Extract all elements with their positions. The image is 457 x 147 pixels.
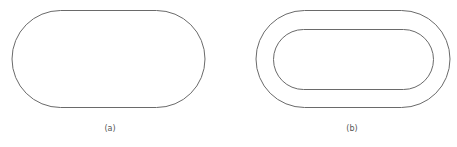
caption-a: (a) — [95, 124, 125, 133]
stadium-shape-a — [12, 11, 205, 108]
stadium-inner-b — [274, 30, 434, 90]
stadium-outer-b — [256, 11, 450, 108]
diagram-canvas — [0, 0, 457, 147]
caption-b: (b) — [337, 124, 367, 133]
figure-b — [256, 11, 450, 108]
diagram-figure: (a) (b) — [0, 0, 457, 147]
figure-a — [12, 11, 205, 108]
